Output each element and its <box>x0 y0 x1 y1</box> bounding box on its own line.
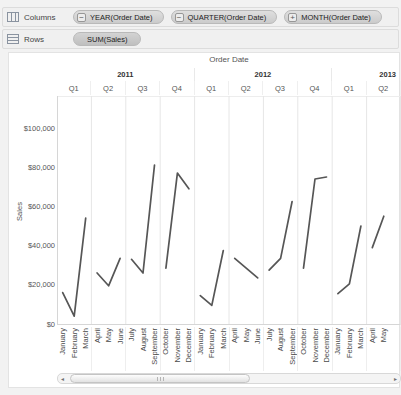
y-axis-tick-label: $40,000 <box>15 241 55 250</box>
month-header-label[interactable]: July <box>265 328 274 341</box>
quarter-header-label[interactable]: Q4 <box>160 81 194 95</box>
field-pill[interactable]: −QUARTER(Order Date) <box>171 10 278 24</box>
line-chart-plot[interactable] <box>57 96 401 327</box>
month-header-label[interactable]: February <box>207 328 216 358</box>
month-header-label[interactable]: March <box>81 328 90 349</box>
columns-shelf-head: Columns <box>3 12 73 22</box>
month-header-label[interactable]: December <box>184 328 193 363</box>
scrollbar-left-arrow-icon[interactable]: ◂ <box>61 375 64 383</box>
worksheet: Order Date 201120122013 Q1Q2Q3Q4Q1Q2Q3Q4… <box>8 52 400 388</box>
collapse-icon[interactable]: − <box>175 13 184 22</box>
quarter-header-label[interactable]: Q4 <box>298 81 332 95</box>
sales-line-2011-Q2[interactable] <box>97 258 120 286</box>
field-pill-label: YEAR(Order Date) <box>90 13 153 22</box>
field-pill[interactable]: SUM(Sales) <box>73 32 141 46</box>
year-header-label[interactable]: 2012 <box>195 68 333 81</box>
y-axis-tick-label: $100,000 <box>15 124 55 133</box>
pane-separator <box>366 327 367 371</box>
sales-line-2013-Q2[interactable] <box>372 216 384 247</box>
column-field-header: Order Date <box>57 55 401 64</box>
month-header-label[interactable]: August <box>276 328 285 351</box>
month-header-label[interactable]: August <box>139 328 148 351</box>
pane-separator <box>194 327 195 371</box>
sales-line-2011-Q1[interactable] <box>63 218 86 316</box>
month-header-label[interactable]: February <box>345 328 354 358</box>
pane-separator <box>332 327 333 371</box>
rows-icon <box>7 34 19 44</box>
pane-separator <box>229 327 230 371</box>
month-header-label[interactable]: June <box>116 328 125 344</box>
month-header-label[interactable]: April <box>230 328 239 343</box>
quarter-header-label[interactable]: Q1 <box>57 81 91 95</box>
rows-shelf-label: Rows <box>24 35 44 44</box>
pane-separator <box>400 327 401 371</box>
pane-separator <box>160 327 161 371</box>
expand-icon[interactable]: + <box>288 13 297 22</box>
horizontal-scrollbar[interactable]: ◂ ▸ <box>57 373 401 384</box>
quarter-header-label[interactable]: Q2 <box>91 81 125 95</box>
columns-shelf: Columns −YEAR(Order Date)−QUARTER(Order … <box>2 7 399 27</box>
rows-shelf: Rows SUM(Sales) <box>2 29 399 49</box>
month-header-label[interactable]: April <box>93 328 102 343</box>
columns-pill-tray[interactable]: −YEAR(Order Date)−QUARTER(Order Date)+MO… <box>73 10 382 24</box>
month-header-label[interactable]: November <box>173 328 182 363</box>
month-header-label[interactable]: January <box>196 328 205 355</box>
y-axis-tick-label: $60,000 <box>15 202 55 211</box>
scrollbar-right-arrow-icon[interactable]: ▸ <box>394 375 397 383</box>
month-header-label[interactable]: May <box>379 328 388 342</box>
pane-separator <box>263 327 264 371</box>
columns-shelf-label: Columns <box>24 13 56 22</box>
field-pill-label: SUM(Sales) <box>87 35 127 44</box>
rows-shelf-head: Rows <box>3 34 73 44</box>
month-header-label[interactable]: March <box>219 328 228 349</box>
year-header-row: 201120122013 <box>57 68 401 81</box>
month-header-label[interactable]: September <box>150 328 159 365</box>
collapse-icon[interactable]: − <box>77 13 86 22</box>
columns-icon <box>7 12 19 22</box>
month-header-label[interactable]: April <box>368 328 377 343</box>
field-pill-label: MONTH(Order Date) <box>301 13 371 22</box>
quarter-header-row: Q1Q2Q3Q4Q1Q2Q3Q4Q1Q2 <box>57 81 401 95</box>
month-header-label[interactable]: November <box>311 328 320 363</box>
month-header-label[interactable]: June <box>253 328 262 344</box>
sales-line-2012-Q4[interactable] <box>304 177 327 268</box>
y-axis-tick-label: $20,000 <box>15 280 55 289</box>
sales-line-2011-Q3[interactable] <box>132 165 155 273</box>
month-header-label[interactable]: January <box>58 328 67 355</box>
field-pill[interactable]: −YEAR(Order Date) <box>73 10 164 24</box>
month-header-label[interactable]: February <box>70 328 79 358</box>
month-header-label[interactable]: December <box>322 328 331 363</box>
rows-pill-tray[interactable]: SUM(Sales) <box>73 32 141 46</box>
sales-line-2013-Q1[interactable] <box>338 226 361 294</box>
month-header-label[interactable]: September <box>288 328 297 365</box>
field-pill-label: QUARTER(Order Date) <box>188 13 267 22</box>
scrollbar-thumb[interactable] <box>70 374 250 383</box>
year-header-label[interactable]: 2011 <box>57 68 195 81</box>
quarter-header-label[interactable]: Q1 <box>195 81 229 95</box>
quarter-header-label[interactable]: Q2 <box>229 81 263 95</box>
month-header-label[interactable]: July <box>127 328 136 341</box>
quarter-header-label[interactable]: Q1 <box>332 81 366 95</box>
month-header-row: JanuaryFebruaryMarchAprilMayJuneJulyAugu… <box>57 327 401 372</box>
quarter-header-label[interactable]: Q3 <box>126 81 160 95</box>
pane-separator <box>297 327 298 371</box>
quarter-header-label[interactable]: Q2 <box>367 81 401 95</box>
month-header-label[interactable]: May <box>242 328 251 342</box>
field-pill[interactable]: +MONTH(Order Date) <box>284 10 382 24</box>
y-axis-tick-label: $0 <box>15 320 55 329</box>
month-header-label[interactable]: January <box>333 328 342 355</box>
month-header-label[interactable]: October <box>299 328 308 355</box>
sales-line-2012-Q1[interactable] <box>200 251 223 306</box>
pane-separator <box>91 327 92 371</box>
month-header-label[interactable]: May <box>104 328 113 342</box>
sales-line-2011-Q4[interactable] <box>166 173 189 268</box>
sales-line-2012-Q3[interactable] <box>269 202 292 271</box>
month-header-label[interactable]: March <box>356 328 365 349</box>
sales-line-2012-Q2[interactable] <box>235 258 258 278</box>
scrollbar-grip-icon <box>157 377 164 381</box>
month-header-label[interactable]: October <box>161 328 170 355</box>
year-header-label[interactable]: 2013 <box>332 68 401 81</box>
quarter-header-label[interactable]: Q3 <box>263 81 297 95</box>
y-axis-tick-label: $80,000 <box>15 163 55 172</box>
pane-separator <box>125 327 126 371</box>
